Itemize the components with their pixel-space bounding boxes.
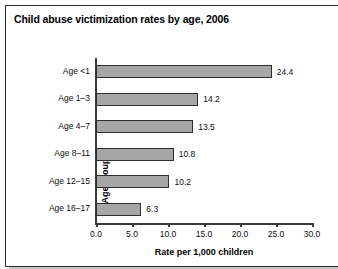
bar-row: Age 4–713.5 <box>96 113 312 141</box>
x-axis-tick <box>312 223 314 227</box>
x-axis-tick <box>276 223 278 227</box>
x-axis-tick-label: 5.0 <box>126 229 138 239</box>
plot-area: Age group Age <124.4Age 1–314.2Age 4–713… <box>96 58 312 223</box>
bar-value-label: 10.8 <box>179 148 196 160</box>
x-axis-tick <box>204 223 206 227</box>
x-axis-tick <box>96 223 98 227</box>
x-axis-title: Rate per 1,000 children <box>96 247 312 257</box>
bar-value-label: 14.2 <box>203 93 220 105</box>
x-axis-tick-label: 20.0 <box>232 229 249 239</box>
bar-row: Age <124.4 <box>96 58 312 86</box>
bar-value-label: 13.5 <box>198 121 215 133</box>
bar <box>96 175 169 188</box>
x-axis-tick <box>132 223 134 227</box>
category-label: Age 8–11 <box>54 147 90 160</box>
x-axis-tick <box>240 223 242 227</box>
bar-value-label: 6.3 <box>146 203 158 215</box>
bar <box>96 120 193 133</box>
x-axis-tick-label: 30.0 <box>304 229 321 239</box>
bar-value-label: 10.2 <box>174 176 191 188</box>
x-axis-tick-label: 15.0 <box>196 229 213 239</box>
category-label: Age 16–17 <box>49 202 90 215</box>
bar <box>96 65 272 78</box>
bar-row: Age 1–314.2 <box>96 86 312 114</box>
bar <box>96 93 198 106</box>
x-axis-tick-label: 0.0 <box>90 229 102 239</box>
bar-row: Age 16–176.3 <box>96 196 312 224</box>
bar-row: Age 8–1110.8 <box>96 141 312 169</box>
bar <box>96 203 141 216</box>
chart-title: Child abuse victimization rates by age, … <box>14 13 229 25</box>
bar <box>96 148 174 161</box>
x-axis-tick <box>168 223 170 227</box>
bar-row: Age 12–1510.2 <box>96 168 312 196</box>
x-axis-tick-label: 10.0 <box>160 229 177 239</box>
bar-value-label: 24.4 <box>277 66 294 78</box>
category-label: Age 12–15 <box>49 175 90 188</box>
category-label: Age 1–3 <box>58 92 90 105</box>
category-label: Age 4–7 <box>58 120 90 133</box>
category-label: Age <1 <box>63 65 90 78</box>
x-axis-tick-label: 25.0 <box>268 229 285 239</box>
chart-figure: Child abuse victimization rates by age, … <box>0 0 338 269</box>
